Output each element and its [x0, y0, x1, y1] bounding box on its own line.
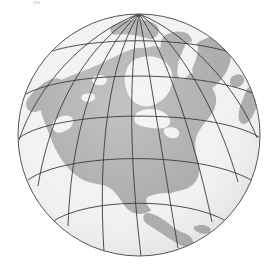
scan-speck-artifact: [33, 1, 40, 4]
globe-illustration: [0, 0, 270, 272]
land-caribbean-island-small: [214, 232, 223, 238]
globe-figure: [0, 0, 270, 272]
land-south-america-north: [172, 247, 228, 270]
